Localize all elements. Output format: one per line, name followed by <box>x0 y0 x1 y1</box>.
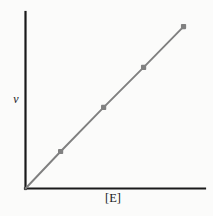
data-series-group <box>26 24 187 189</box>
axes-group <box>25 12 205 189</box>
data-point-marker <box>181 24 186 29</box>
data-point-marker <box>101 105 106 110</box>
data-point-marker <box>141 65 146 70</box>
plot-area <box>0 0 213 216</box>
x-axis-label: [E] <box>93 192 133 205</box>
data-point-marker <box>58 149 63 154</box>
y-axis-label: v <box>9 93 23 105</box>
figure-container: v [E] <box>0 0 213 216</box>
